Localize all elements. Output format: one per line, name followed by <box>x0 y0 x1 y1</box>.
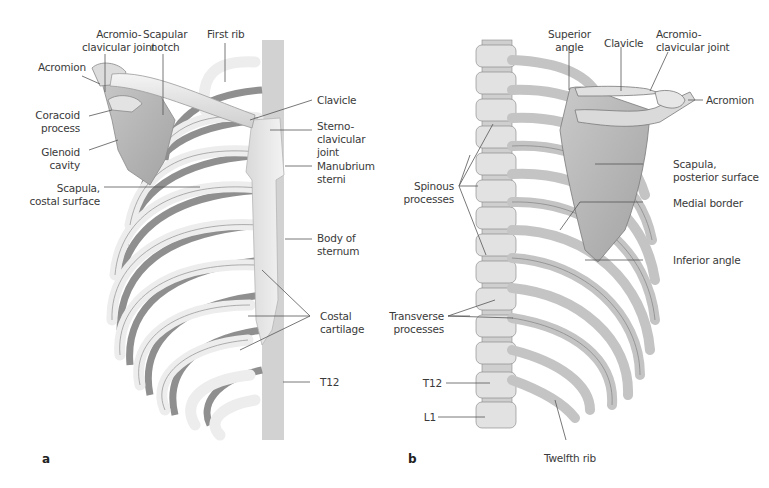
label-a-scapular-notch: Scapular notch <box>143 28 187 54</box>
label-b-inferior-angle: Inferior angle <box>673 254 741 267</box>
panel-a-illustration <box>0 0 769 488</box>
label-a-acromion: Acromion <box>38 61 80 74</box>
label-a-t12: T12 <box>320 376 339 389</box>
label-b-l1: L1 <box>410 411 436 424</box>
panel-letter-b: b <box>408 452 417 466</box>
label-b-medial-border: Medial border <box>673 197 743 210</box>
label-b-spinous-processes: Spinous processes <box>398 180 454 206</box>
label-a-scapula-costal-surface: Scapula, costal surface <box>18 182 100 208</box>
anatomy-figure: Acromio- clavicular joint Scapular notch… <box>0 0 769 488</box>
label-b-transverse-processes: Transverse processes <box>380 310 444 336</box>
label-b-superior-angle: Superior angle <box>548 28 591 54</box>
label-a-body-of-sternum: Body of sternum <box>317 232 359 258</box>
label-a-clavicle: Clavicle <box>317 94 356 107</box>
label-a-first-rib: First rib <box>207 28 245 41</box>
label-b-clavicle: Clavicle <box>604 37 643 50</box>
label-a-manubrium-sterni: Manubrium sterni <box>317 160 375 186</box>
panel-letter-a: a <box>42 452 50 466</box>
label-b-twelfth-rib: Twelfth rib <box>544 452 596 465</box>
label-a-sternoclavicular-joint: Sterno- clavicular joint <box>317 120 365 159</box>
label-b-scapula-posterior-surface: Scapula, posterior surface <box>673 158 759 184</box>
label-a-coracoid-process: Coracoid process <box>30 109 80 135</box>
label-a-costal-cartilage: Costal cartilage <box>320 310 364 336</box>
label-b-acromioclavicular-joint: Acromio- clavicular joint <box>656 28 730 54</box>
label-a-glenoid-cavity: Glenoid cavity <box>30 146 80 172</box>
label-b-t12: T12 <box>410 377 442 390</box>
label-b-acromion: Acromion <box>706 94 754 107</box>
